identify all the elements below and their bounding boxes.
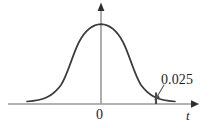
origin-label: 0: [96, 108, 103, 122]
x-axis-arrowhead: [191, 100, 199, 108]
distribution-plot-canvas: [0, 0, 209, 128]
x-axis-label: t: [186, 109, 190, 122]
tail-area-label: 0.025: [161, 73, 193, 87]
tail-area-figure: 0 t 0.025: [0, 0, 209, 128]
y-axis-arrowhead: [98, 3, 105, 12]
